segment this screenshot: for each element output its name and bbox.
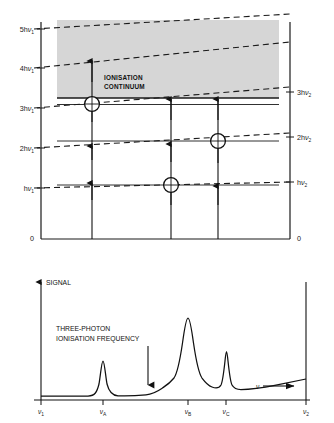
signal-axis-label: SIGNAL (46, 279, 71, 286)
signal-x-tick-label-nu2: ν2 (303, 408, 309, 417)
figure-svg: 5hν1 4hν1 3hν1 2hν1 hν1 0 3hν2 2hν2 hν2 … (0, 0, 334, 423)
right-tick-label-2: 2hν2 (297, 133, 312, 143)
energy-level-diagram: 5hν1 4hν1 3hν1 2hν1 hν1 0 3hν2 2hν2 hν2 … (20, 14, 312, 243)
right-tick-label-3: 3hν2 (297, 88, 312, 98)
signal-x-tick-label-nuC: νC (223, 408, 230, 417)
three-photon-label-line1: THREE-PHOTON (56, 325, 110, 332)
right-tick-label-0: 0 (297, 234, 301, 243)
left-tick-label-4: 4hν1 (20, 64, 35, 74)
transition-ladder-C (211, 99, 226, 239)
right-tick-label-1: hν2 (297, 178, 308, 188)
signal-x-tick-label-nuB: νB (185, 408, 192, 417)
ionisation-continuum-label-line2: CONTINUUM (104, 83, 145, 90)
left-tick-label-0: 0 (30, 234, 34, 243)
transition-ladder-B (164, 99, 179, 239)
left-tick-label-3: 3hν1 (20, 104, 35, 114)
nu2-ladder-line-1 (34, 133, 290, 148)
figure-root: 5hν1 4hν1 3hν1 2hν1 hν1 0 3hν2 2hν2 hν2 … (0, 0, 334, 423)
ionisation-continuum-region (57, 20, 279, 98)
ionisation-continuum-label-line1: IONISATION (104, 74, 143, 81)
left-tick-label-1: hν1 (24, 184, 35, 194)
signal-spectrum: SIGNAL ν1 νA νB νC ν2 ν THREE-PHOTON ION… (34, 279, 310, 417)
signal-x-tick-label-nu1: ν1 (38, 408, 44, 417)
signal-x-tick-label-nuA: νA (100, 408, 107, 417)
left-tick-label-5: 5hν1 (20, 25, 35, 35)
left-tick-label-2: 2hν1 (20, 144, 35, 154)
signal-x-ticks (41, 400, 306, 405)
three-photon-label-line2: IONISATION FREQUENCY (56, 335, 140, 343)
